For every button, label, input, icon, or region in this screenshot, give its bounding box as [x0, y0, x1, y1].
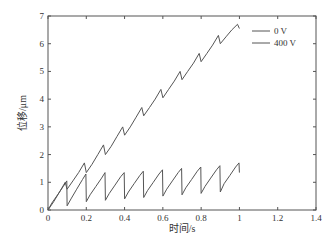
- legend-label: 0 V: [274, 26, 288, 36]
- y-tick-label: 4: [40, 94, 45, 104]
- x-tick-label: 0.2: [81, 213, 92, 223]
- y-tick-label: 0: [40, 205, 45, 215]
- y-tick-label: 6: [40, 39, 45, 49]
- x-tick-label: 0.4: [119, 213, 131, 223]
- x-tick-label: 1.4: [310, 213, 322, 223]
- x-tick-label: 0: [46, 213, 51, 223]
- legend-label: 400 V: [274, 38, 297, 48]
- chart: 00.20.40.60.811.21.4 01234567 时间/s 位移/μm…: [0, 0, 333, 249]
- y-tick-label: 3: [40, 122, 45, 132]
- y-tick-label: 7: [40, 11, 45, 21]
- y-tick-label: 5: [40, 66, 45, 76]
- x-tick-label: 1.2: [272, 213, 283, 223]
- x-tick-label: 1: [237, 213, 242, 223]
- x-tick-label: 0.8: [196, 213, 208, 223]
- y-tick-label: 1: [40, 177, 45, 187]
- x-tick-label: 0.6: [157, 213, 169, 223]
- y-axis-label: 位移/μm: [16, 95, 28, 131]
- x-axis-label: 时间/s: [169, 222, 196, 234]
- y-tick-label: 2: [40, 150, 45, 160]
